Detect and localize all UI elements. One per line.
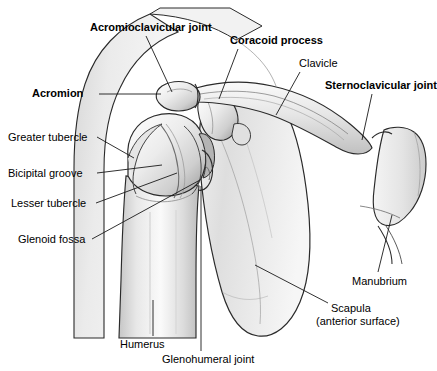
label-scapula-sub: (anterior surface) [316, 315, 400, 327]
humerus-bone [119, 114, 215, 338]
label-scapula: Scapula [331, 302, 371, 314]
label-manubrium: Manubrium [352, 275, 407, 287]
humeral-head [128, 114, 206, 196]
leader-sternoclavicular-joint [362, 94, 372, 140]
acromion-bone [156, 82, 200, 111]
label-bicipital-groove: Bicipital groove [8, 167, 83, 179]
label-glenoid-fossa: Glenoid fossa [18, 233, 85, 245]
leader-acromioclavicular-joint [146, 36, 172, 92]
label-lesser-tubercle: Lesser tubercle [11, 197, 86, 209]
label-glenohumeral-joint: Glenohumeral joint [162, 353, 254, 365]
label-coracoid-process: Coracoid process [230, 34, 323, 46]
label-humerus: Humerus [120, 338, 165, 350]
label-clavicle: Clavicle [299, 57, 338, 69]
label-sternoclavicular-joint: Sternoclavicular joint [325, 79, 437, 91]
label-acromioclavicular-joint: Acromioclavicular joint [90, 21, 212, 33]
label-acromion: Acromion [32, 87, 83, 99]
label-greater-tubercle: Greater tubercle [8, 131, 87, 143]
